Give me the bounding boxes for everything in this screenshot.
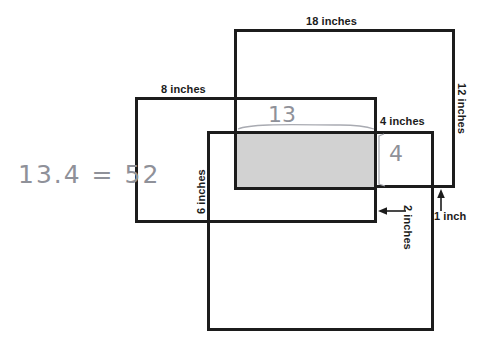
figure-canvas: 13.4 = 52 13 4 18 inches 12 inches 8 inc… [0,0,489,350]
label-18-inches: 18 inches [306,15,357,27]
handwritten-side-measure: 4 [389,141,403,166]
gap-arrow-up-icon [437,189,445,211]
handwritten-top-measure: 13 [268,102,296,127]
label-12-inches: 12 inches [456,83,468,134]
label-8-inches: 8 inches [161,83,206,95]
label-1-inch: 1 inch [434,210,466,222]
handwritten-equation: 13.4 = 52 [18,160,160,189]
shaded-overlap-rectangle [234,131,377,190]
label-2-inches: 2 inches [402,205,414,250]
label-4-inches: 4 inches [380,115,425,127]
label-6-inches: 6 inches [195,169,207,214]
